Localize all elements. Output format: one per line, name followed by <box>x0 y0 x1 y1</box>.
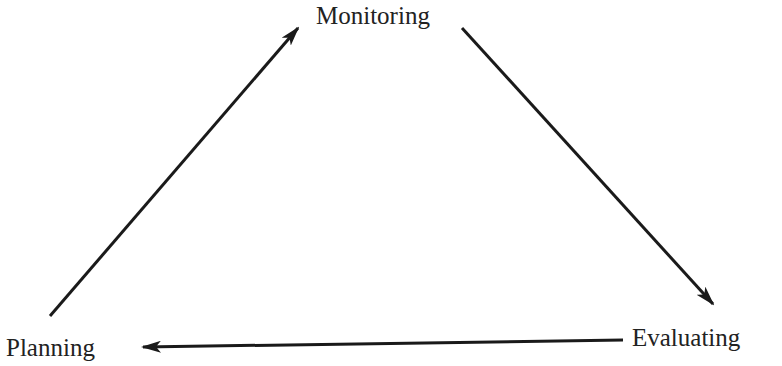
arrow-planning-to-monitoring <box>50 28 298 316</box>
arrow-monitoring-to-evaluating <box>462 28 713 304</box>
cycle-arrows <box>0 0 782 366</box>
arrow-evaluating-to-planning <box>143 340 623 347</box>
